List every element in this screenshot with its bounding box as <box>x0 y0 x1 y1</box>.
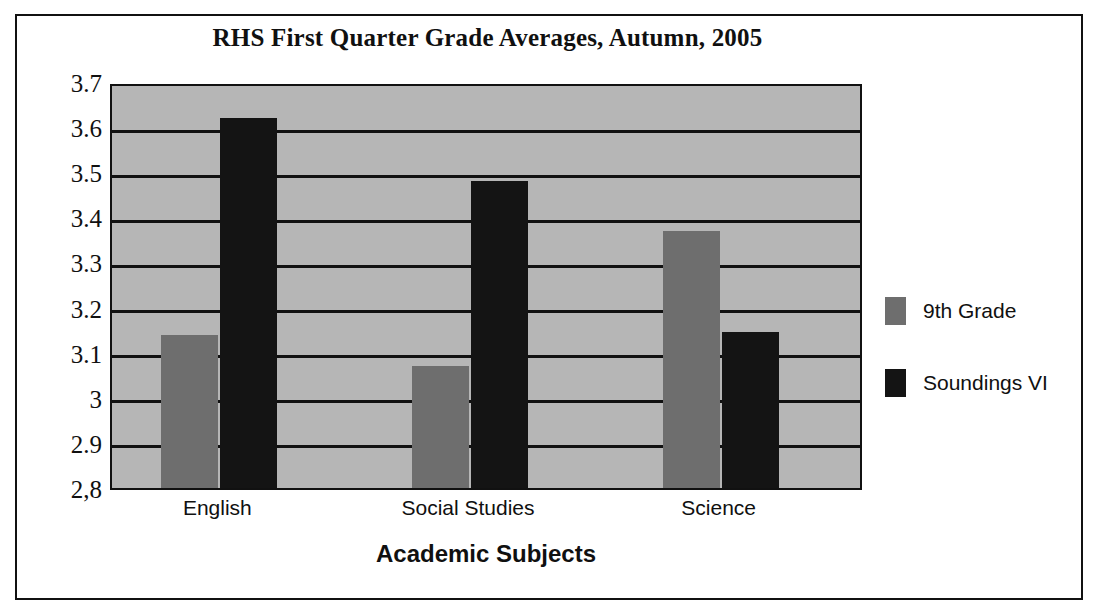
bar <box>161 335 218 488</box>
y-axis-tick-label: 2,8 <box>40 476 102 504</box>
legend-swatch <box>885 369 906 397</box>
x-axis-tick-label: English <box>183 496 252 520</box>
bar <box>220 118 277 488</box>
plot-inner <box>112 86 860 488</box>
x-axis-tick-label: Social Studies <box>401 496 534 520</box>
y-axis-tick-label: 3 <box>40 386 102 414</box>
plot-area <box>110 84 862 490</box>
y-axis-tick-label: 3.5 <box>40 160 102 188</box>
x-axis-tick-label: Science <box>681 496 756 520</box>
bar <box>722 332 779 488</box>
y-axis-tick-label: 2.9 <box>40 431 102 459</box>
y-axis-tick-labels: 3.73.63.53.43.33.23.132.92,8 <box>36 84 102 490</box>
x-axis-tick-labels: EnglishSocial StudiesScience <box>110 496 862 530</box>
bar <box>471 181 528 488</box>
legend-entry: 9th Grade <box>885 296 1075 326</box>
y-axis-tick-label: 3.4 <box>40 205 102 233</box>
y-axis-tick-label: 3.6 <box>40 115 102 143</box>
bar <box>412 366 469 488</box>
y-axis-tick-label: 3.7 <box>40 70 102 98</box>
legend-label: Soundings VI <box>923 371 1048 395</box>
legend-label: 9th Grade <box>923 299 1016 323</box>
bar <box>663 231 720 488</box>
chart-title: RHS First Quarter Grade Averages, Autumn… <box>110 24 865 52</box>
legend-swatch <box>885 297 906 325</box>
y-axis-tick-label: 3.3 <box>40 250 102 278</box>
y-axis-tick-label: 3.1 <box>40 341 102 369</box>
y-axis-tick-label: 3.2 <box>40 296 102 324</box>
chart-figure: RHS First Quarter Grade Averages, Autumn… <box>0 0 1101 616</box>
legend-entry: Soundings VI <box>885 368 1075 398</box>
chart-legend: 9th GradeSoundings VI <box>885 296 1075 440</box>
x-axis-title: Academic Subjects <box>110 540 862 568</box>
